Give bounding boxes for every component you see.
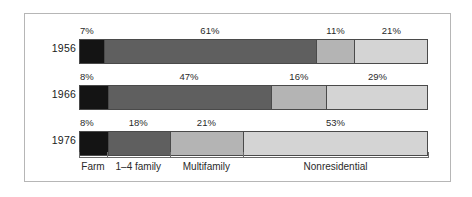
- bar-segment-1956-multifamily: [316, 40, 354, 63]
- bar-segment-1956-farm: [80, 40, 104, 63]
- bar-segment-1976-multifamily: [170, 132, 243, 155]
- data-label-1976-multifamily: 21%: [170, 117, 243, 128]
- row-label-1966: 1966: [38, 88, 76, 100]
- axis-tick-4: [428, 152, 429, 158]
- data-label-1956-nonresidential: 21%: [355, 25, 428, 36]
- axis-label-nonresidential: Nonresidential: [243, 161, 428, 173]
- data-label-1966-farm: 8%: [80, 71, 94, 82]
- axis-tick-2: [170, 152, 171, 158]
- data-label-band-1966: 8% 47% 16% 29%: [79, 68, 428, 86]
- axis-tick-0: [79, 152, 80, 158]
- chart-figure: 1956 7% 61% 11% 21% 1966 8% 47% 16% 29%: [0, 0, 472, 197]
- bar-row-1956: 1956 7% 61% 11% 21%: [0, 22, 472, 68]
- data-label-1956-multifamily: 11%: [316, 25, 354, 36]
- bar-segment-1976-one-four: [108, 132, 170, 155]
- data-label-1966-nonresidential: 29%: [327, 71, 428, 82]
- data-label-band-1976: 8% 18% 21% 53%: [79, 114, 428, 132]
- stacked-bar-1956: [79, 39, 428, 64]
- row-label-1956: 1956: [38, 42, 76, 54]
- axis-label-multifamily: Multifamily: [170, 161, 243, 173]
- axis-label-one-four-family: 1–4 family: [107, 161, 170, 173]
- data-label-1976-one-four: 18%: [107, 117, 170, 128]
- bar-segment-1956-nonresidential: [354, 40, 427, 63]
- bar-segment-1976-nonresidential: [243, 132, 427, 155]
- category-axis-labels: Farm 1–4 family Multifamily Nonresidenti…: [79, 160, 428, 176]
- data-label-1956-farm: 7%: [80, 25, 94, 36]
- stacked-bar-1966: [79, 85, 428, 110]
- bar-segment-1966-nonresidential: [326, 86, 427, 109]
- data-label-1966-one-four: 47%: [107, 71, 271, 82]
- category-axis-line: [79, 157, 428, 158]
- bar-segment-1966-one-four: [108, 86, 271, 109]
- bar-segment-1966-farm: [80, 86, 108, 109]
- axis-tick-1: [107, 152, 108, 158]
- data-label-1976-farm: 8%: [80, 117, 94, 128]
- axis-tick-3: [243, 152, 244, 158]
- bar-segment-1966-multifamily: [271, 86, 327, 109]
- data-label-band-1956: 7% 61% 11% 21%: [79, 22, 428, 40]
- data-label-1966-multifamily: 16%: [271, 71, 327, 82]
- bar-row-1976: 1976 8% 18% 21% 53%: [0, 114, 472, 160]
- data-label-1956-one-four: 61%: [103, 25, 316, 36]
- bar-segment-1976-farm: [80, 132, 108, 155]
- row-label-1976: 1976: [38, 134, 76, 146]
- bar-segment-1956-one-four: [104, 40, 316, 63]
- bar-row-1966: 1966 8% 47% 16% 29%: [0, 68, 472, 114]
- plot-area: 1956 7% 61% 11% 21% 1966 8% 47% 16% 29%: [0, 0, 472, 197]
- stacked-bar-1976: [79, 131, 428, 156]
- data-label-1976-nonresidential: 53%: [243, 117, 428, 128]
